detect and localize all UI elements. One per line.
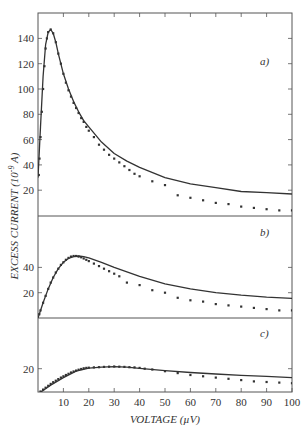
data-point <box>253 207 255 209</box>
data-point <box>75 370 77 372</box>
x-tick-label: 60 <box>185 396 197 408</box>
data-point <box>60 377 62 379</box>
x-axis-title: VOLTAGE (µV) <box>130 413 200 426</box>
data-point <box>227 203 229 205</box>
data-point <box>291 382 293 384</box>
y-tick-label: 120 <box>18 58 35 70</box>
data-point <box>98 265 100 267</box>
data-point <box>240 306 242 308</box>
data-point <box>123 165 125 167</box>
y-tick-label: 20 <box>23 184 35 196</box>
data-point <box>80 117 82 119</box>
figure: 20406080100120140 2040 20 10203040506070… <box>0 0 302 434</box>
data-point <box>85 259 87 261</box>
data-point <box>70 256 72 258</box>
data-point <box>50 28 52 30</box>
data-point <box>240 379 242 381</box>
data-point <box>52 276 54 278</box>
data-point <box>278 209 280 211</box>
data-point <box>38 313 40 315</box>
data-point <box>75 107 77 109</box>
data-point <box>55 41 57 43</box>
data-point <box>266 208 268 210</box>
data-point <box>85 126 87 128</box>
data-point <box>278 382 280 384</box>
data-point <box>103 366 105 368</box>
data-point <box>108 270 110 272</box>
data-point <box>113 158 115 160</box>
data-point <box>46 37 48 39</box>
x-tick-label: 50 <box>160 396 172 408</box>
data-point <box>47 31 49 33</box>
data-point <box>83 121 85 123</box>
data-point <box>139 175 141 177</box>
data-point <box>253 380 255 382</box>
data-point <box>38 158 40 160</box>
x-tick-label: 70 <box>210 396 222 408</box>
data-point <box>52 381 54 383</box>
data-point <box>47 385 49 387</box>
data-point <box>139 284 141 286</box>
data-point <box>113 365 115 367</box>
data-point <box>67 373 69 375</box>
data-point <box>266 381 268 383</box>
data-point <box>98 366 100 368</box>
data-point <box>151 180 153 182</box>
data-point <box>253 307 255 309</box>
data-point <box>128 169 130 171</box>
data-point <box>215 202 217 204</box>
data-point <box>70 371 72 373</box>
data-point <box>177 297 179 299</box>
data-point <box>227 304 229 306</box>
data-point <box>38 174 40 176</box>
data-point <box>291 309 293 311</box>
data-point <box>189 299 191 301</box>
data-point <box>103 149 105 151</box>
data-point <box>93 136 95 138</box>
x-tick-label: 100 <box>284 396 301 408</box>
data-point <box>189 374 191 376</box>
data-point <box>202 301 204 303</box>
x-axis: 102030405060708090100 <box>58 388 301 408</box>
panel-label-b: b) <box>260 226 270 239</box>
data-point <box>202 199 204 201</box>
frame-border <box>38 13 292 392</box>
data-point <box>65 82 67 84</box>
data-point <box>85 367 87 369</box>
y-axis-title-unit: A) <box>8 152 21 165</box>
data-point <box>266 308 268 310</box>
data-point <box>133 366 135 368</box>
data-point <box>215 377 217 379</box>
data-point <box>189 197 191 199</box>
data-point <box>41 111 43 113</box>
y-tick-label: 40 <box>23 159 35 171</box>
data-point <box>57 378 59 380</box>
data-point <box>42 88 44 90</box>
data-point <box>144 368 146 370</box>
data-point <box>113 273 115 275</box>
data-point <box>177 372 179 374</box>
data-point <box>108 366 110 368</box>
y-tick-label: 60 <box>23 134 35 146</box>
data-point <box>62 73 64 75</box>
data-point <box>39 136 41 138</box>
data-point <box>75 255 77 257</box>
data-point <box>118 275 120 277</box>
plot-frame <box>38 13 292 392</box>
data-point <box>227 378 229 380</box>
data-point <box>62 375 64 377</box>
y-tick-label: 40 <box>23 261 35 273</box>
data-point <box>164 184 166 186</box>
x-tick-label: 80 <box>236 396 248 408</box>
data-point <box>164 292 166 294</box>
theory-curve <box>38 30 292 195</box>
y-tick-label: 80 <box>23 108 35 120</box>
data-point <box>57 268 59 270</box>
panel-b: 2040 <box>23 255 293 318</box>
data-point <box>60 264 62 266</box>
data-point <box>42 389 44 391</box>
data-point <box>65 374 67 376</box>
data-point <box>78 256 80 258</box>
data-point <box>93 366 95 368</box>
data-point <box>177 194 179 196</box>
